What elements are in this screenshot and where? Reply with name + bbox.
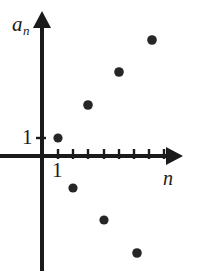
y-axis-tick-label-1: 1 <box>22 127 33 148</box>
x-axis-tick-label-1: 1 <box>52 160 63 181</box>
data-points <box>53 35 156 258</box>
data-point-n1 <box>53 133 62 142</box>
y-axis-label: an <box>12 14 30 37</box>
sequence-scatter-figure: an n 1 1 <box>0 0 206 271</box>
data-point-n2 <box>68 183 77 192</box>
x-axis-arrowhead <box>166 147 183 165</box>
y-axis-label-subscript: n <box>23 23 30 38</box>
data-point-n7 <box>147 35 157 45</box>
data-point-n4 <box>99 215 108 224</box>
y-axis-arrowhead <box>33 11 51 28</box>
y-axis-label-base: a <box>12 12 23 36</box>
data-point-n5 <box>114 67 124 77</box>
data-point-n6 <box>132 248 142 258</box>
data-point-n3 <box>83 100 93 110</box>
x-axis-label: n <box>163 168 173 188</box>
